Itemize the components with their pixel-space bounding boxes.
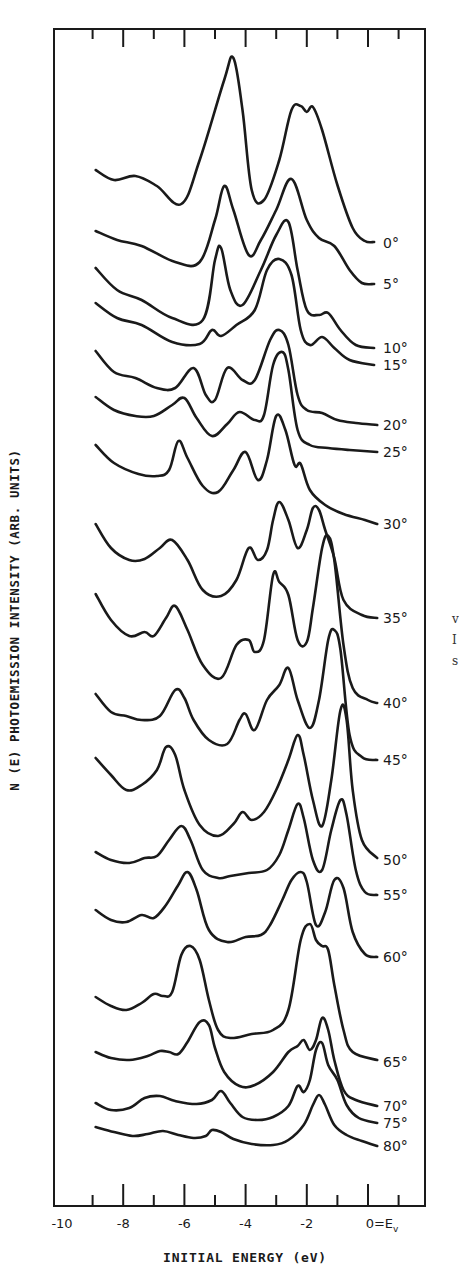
curve-angle-label: 30° bbox=[383, 516, 408, 532]
spectrum-curve bbox=[96, 415, 378, 524]
edge-text-fragment: s bbox=[452, 654, 458, 668]
spectrum-curve bbox=[96, 179, 374, 284]
x-tick-label: -10 bbox=[51, 1216, 72, 1231]
x-tick-label: 0=Ev bbox=[366, 1216, 399, 1234]
curve-angle-label: 40° bbox=[383, 695, 408, 711]
curve-angle-label: 10° bbox=[383, 340, 408, 356]
curve-angle-label: 55° bbox=[383, 887, 408, 903]
spectrum-curve bbox=[96, 330, 378, 425]
axis-ticks bbox=[93, 29, 399, 1206]
spectrum-curve bbox=[96, 1018, 378, 1106]
curve-angle-label: 50° bbox=[383, 852, 408, 868]
curve-angle-label: 0° bbox=[383, 235, 399, 251]
spectrum-curve bbox=[96, 924, 378, 1060]
x-tick-label: -6 bbox=[178, 1216, 191, 1231]
curve-angle-label: 5° bbox=[383, 276, 399, 292]
curve-angle-label: 15° bbox=[383, 357, 408, 373]
curve-angle-label: 45° bbox=[383, 752, 408, 768]
curve-angle-label: 65° bbox=[383, 1054, 408, 1070]
spectrum-curve bbox=[96, 259, 374, 365]
spectrum-curve bbox=[96, 352, 378, 452]
spectrum-curve bbox=[96, 1042, 378, 1123]
edge-text-fragment: I bbox=[452, 633, 457, 647]
y-axis-label: N (E) PHOTOEMISSION INTENSITY (ARB. UNIT… bbox=[7, 449, 22, 790]
spectra-curves bbox=[96, 56, 378, 1146]
spectrum-curve bbox=[96, 872, 378, 957]
curve-angle-label: 20° bbox=[383, 417, 408, 433]
curve-angle-label: 70° bbox=[383, 1098, 408, 1114]
curve-angle-label: 60° bbox=[383, 949, 408, 965]
x-tick-label: -4 bbox=[239, 1216, 252, 1231]
curve-angle-label: 75° bbox=[383, 1115, 408, 1131]
x-tick-label: -2 bbox=[300, 1216, 313, 1231]
curve-angle-labels: 0°5°10°15°20°25°30°35°40°45°50°55°60°65°… bbox=[383, 235, 408, 1154]
x-axis-label: INITIAL ENERGY (eV) bbox=[163, 1250, 327, 1265]
curve-angle-label: 25° bbox=[383, 444, 408, 460]
edge-text-fragment: v bbox=[452, 612, 459, 626]
spectra-chart: 0°5°10°15°20°25°30°35°40°45°50°55°60°65°… bbox=[0, 0, 459, 1277]
spectrum-curve bbox=[96, 220, 374, 348]
curve-angle-label: 80° bbox=[383, 1138, 408, 1154]
x-tick-labels: -10-8-6-4-20=Ev bbox=[51, 1216, 399, 1234]
curve-angle-label: 35° bbox=[383, 610, 408, 626]
x-tick-label: -8 bbox=[117, 1216, 130, 1231]
